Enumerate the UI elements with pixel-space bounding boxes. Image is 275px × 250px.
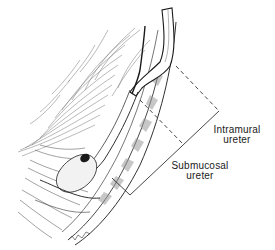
intramural-label-line2: ureter: [206, 135, 268, 145]
submucosal-label-line2: ureter: [168, 171, 232, 181]
submucosal-ureter-label: Submucosal ureter: [168, 161, 232, 181]
ureter-anatomy-figure: Intramural ureter Submucosal ureter: [0, 0, 275, 250]
ureter: [130, 8, 174, 96]
intramural-ureter-label: Intramural ureter: [206, 125, 268, 145]
